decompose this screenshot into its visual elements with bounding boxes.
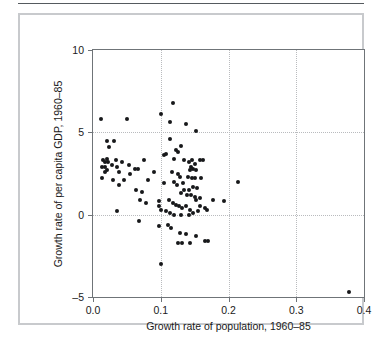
scatter-point [178,231,182,235]
scatter-point [168,120,172,124]
y-tick-label: 5 [78,126,84,138]
x-tick-label: 0.0 [86,304,101,316]
scatter-point [114,158,118,162]
x-tick [161,297,162,302]
scatter-point [175,183,179,187]
x-tick-label: 0.4 [357,304,372,316]
scatter-point [111,178,115,182]
x-tick [296,297,297,302]
scatter-point [205,208,209,212]
scatter-point [115,209,119,213]
x-tick [93,297,94,302]
top-divider-rule [18,3,364,4]
scatter-point [191,185,195,189]
scatter-point [194,198,198,202]
scatter-point [187,188,191,192]
scatter-point [196,209,200,213]
gridline-horizontal [93,132,364,133]
y-axis-label: Growth rate of per capita GDP, 1960–85 [52,80,64,267]
scatter-point [211,198,215,202]
x-axis-label: Growth rate of population, 1960–85 [92,320,365,332]
scatter-point [193,176,197,180]
scatter-point [117,183,121,187]
x-tick [229,297,230,302]
scatter-point [152,170,156,174]
scatter-point [159,112,163,116]
scatter-point [179,213,183,217]
scatter-point [146,178,150,182]
scatter-point [222,199,226,203]
scatter-point [178,175,182,179]
scatter-point [347,290,351,294]
scatter-point [198,204,202,208]
x-tick-label: 0.3 [289,304,304,316]
scatter-point [117,170,121,174]
scatter-point [140,190,144,194]
scatter-point [206,239,210,243]
scatter-point [112,139,116,143]
scatter-point [169,226,173,230]
scatter-point [194,168,198,172]
scatter-point [162,181,166,185]
scatter-point [184,122,188,126]
scatter-point [193,162,197,166]
scatter-point [103,170,107,174]
scatter-point [171,101,175,105]
y-tick-label: 10 [72,44,84,56]
scatter-point [194,234,198,238]
scatter-point [137,219,141,223]
scatter-point [179,144,183,148]
scatter-point [184,232,188,236]
scatter-point [134,188,138,192]
scatter-point [179,191,183,195]
figure-container: –505100.00.10.20.30.4 Growth rate of per… [18,13,364,325]
scatter-point [136,167,140,171]
y-tick [88,215,93,216]
scatter-point [144,201,148,205]
y-tick-label: –5 [72,291,84,303]
scatter-point [182,188,186,192]
x-tick-label: 0.1 [153,304,168,316]
scatter-point [105,139,109,143]
scatter-point [180,241,184,245]
scatter-point [115,165,119,169]
scatter-point [110,163,114,167]
scatter-point [182,158,186,162]
scatter-point [125,117,129,121]
scatter-point [99,117,103,121]
scatter-point [127,163,131,167]
y-tick [88,50,93,51]
scatter-point [176,150,180,154]
gridline-vertical [161,50,162,297]
scatter-point [172,157,176,161]
scatter-plot-area: –505100.00.10.20.30.4 [92,49,365,298]
y-tick-label: 0 [78,209,84,221]
y-axis-label-container: Growth rate of per capita GDP, 1960–85 [50,49,66,298]
scatter-point [236,180,240,184]
scatter-point [198,196,202,200]
scatter-point [159,262,163,266]
scatter-point [100,176,104,180]
scatter-point [128,172,132,176]
scatter-point [172,213,176,217]
scatter-point [142,158,146,162]
scatter-point [107,145,111,149]
scatter-point [138,198,142,202]
scatter-point [181,181,185,185]
gridline-horizontal [93,215,364,216]
scatter-point [195,186,199,190]
scatter-point [168,137,172,141]
scatter-point [122,178,126,182]
scatter-point [159,208,163,212]
y-tick [88,132,93,133]
scatter-point [201,158,205,162]
scatter-point [170,170,174,174]
scatter-point [120,160,124,164]
scatter-point [164,152,168,156]
x-tick [364,297,365,302]
gridline-vertical [296,50,297,297]
scatter-point [199,176,203,180]
x-tick-label: 0.2 [221,304,236,316]
scatter-point [188,168,192,172]
scatter-point [194,129,198,133]
